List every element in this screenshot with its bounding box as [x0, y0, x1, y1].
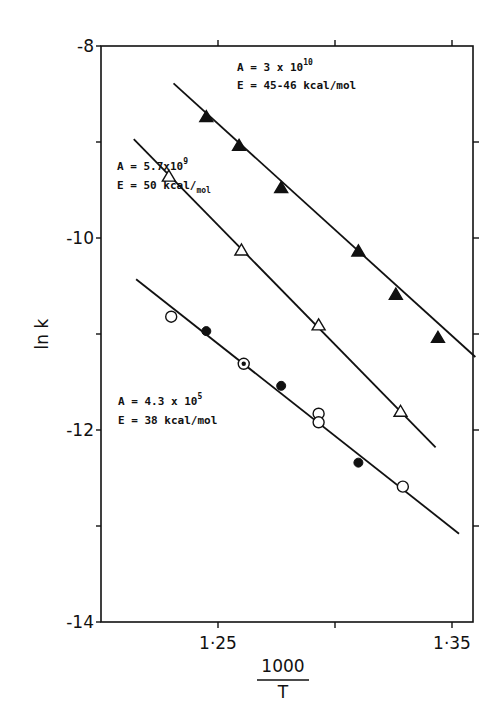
annotation-E: E = 45-46 kcal/mol [237, 79, 356, 92]
fit-lines [134, 83, 476, 533]
filled-triangle-marker [431, 331, 444, 342]
filled-triangle-marker [275, 182, 288, 193]
y-tick-label: -14 [66, 612, 94, 632]
annotation-A: A = 5.7x109 [117, 157, 188, 173]
axis-ticks: 1·251·35-8-10-12-14 [66, 36, 479, 653]
arrhenius-plot: 1·251·35-8-10-12-14 A = 3 x 1010E = 45-4… [0, 0, 504, 725]
open-circle-marker [166, 311, 177, 322]
fit-line [174, 83, 476, 357]
annotation-A: A = 3 x 1010 [237, 58, 313, 74]
filled-triangle-marker [233, 139, 246, 150]
annotations: A = 3 x 1010E = 45-46 kcal/molA = 5.7x10… [117, 58, 356, 427]
x-tick-label: 1·25 [199, 633, 237, 653]
filled-circle-marker [202, 327, 211, 336]
axis-titles: ln k 1000 T [32, 318, 309, 702]
annotation-E: E = 38 kcal/mol [118, 414, 217, 427]
x-axis-title-denominator: T [277, 682, 289, 702]
annotation-E: E = 50 kcal/mol [117, 179, 211, 195]
y-tick-label: -12 [66, 420, 94, 440]
y-tick-label: -10 [66, 228, 94, 248]
y-tick-label: -8 [77, 36, 94, 56]
dotted-circle-center [242, 362, 246, 366]
annotation-A: A = 4.3 x 105 [118, 392, 202, 408]
y-axis-title: ln k [32, 318, 52, 349]
annotation-A-exponent: 5 [197, 392, 202, 401]
x-tick-label: 1·35 [433, 633, 471, 653]
filled-circle-marker [354, 458, 363, 467]
annotation-E-subscript: mol [196, 186, 211, 195]
open-circle-marker [397, 481, 408, 492]
filled-circle-marker [277, 381, 286, 390]
x-axis-title-numerator: 1000 [261, 656, 304, 676]
data-markers [162, 111, 444, 493]
annotation-A-exponent: 9 [183, 157, 188, 166]
plot-border [101, 46, 473, 622]
plot-frame [101, 46, 473, 622]
open-circle-marker [313, 417, 324, 428]
annotation-A-exponent: 10 [303, 58, 313, 67]
